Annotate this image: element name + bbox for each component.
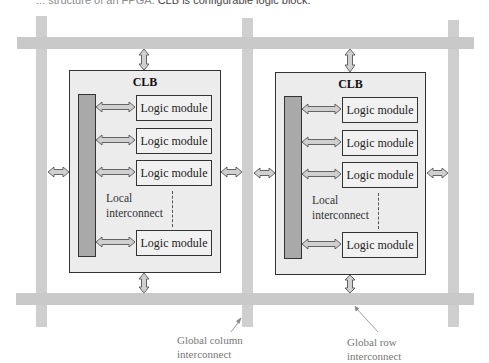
double-arrow-vertical-icon (139, 273, 149, 293)
double-arrow-horizontal-icon (96, 135, 135, 145)
double-arrow-horizontal-icon (302, 169, 341, 179)
double-arrow-horizontal-icon (221, 167, 242, 177)
global-row-interconnect-label: Global row interconnect (347, 335, 401, 363)
double-arrow-horizontal-icon (96, 167, 135, 177)
leader-line-row (357, 309, 378, 332)
leader-arrowhead-icon (237, 318, 242, 324)
double-arrow-horizontal-icon (96, 237, 135, 247)
double-arrow-horizontal-icon (48, 167, 69, 177)
double-arrow-horizontal-icon (254, 168, 275, 178)
double-arrow-horizontal-icon (427, 168, 448, 178)
global-column-interconnect-label: Global column interconnect (177, 333, 243, 361)
double-arrow-vertical-icon (139, 49, 149, 70)
double-arrow-horizontal-icon (302, 239, 341, 249)
double-arrow-vertical-icon (345, 49, 355, 72)
double-arrow-horizontal-icon (96, 102, 135, 112)
double-arrow-horizontal-icon (302, 137, 341, 147)
double-arrow-vertical-icon (345, 275, 355, 293)
double-arrow-horizontal-icon (302, 104, 341, 114)
arrows-overlay (0, 0, 489, 363)
